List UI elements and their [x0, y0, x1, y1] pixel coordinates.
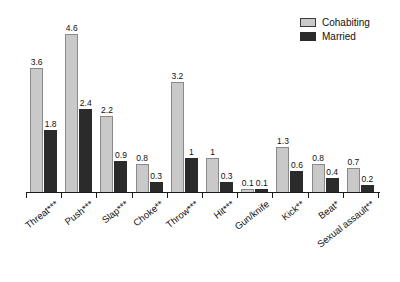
x-axis-tick	[132, 193, 133, 198]
x-axis-tick	[378, 193, 379, 198]
bar-cohabiting: 3.2	[171, 20, 184, 192]
bar-married: 0.6	[290, 20, 303, 192]
bar-value-label: 0.3	[150, 172, 162, 181]
plot-area: 3.61.84.62.42.20.90.80.33.2110.30.10.11.…	[26, 20, 378, 192]
x-axis-tick	[167, 193, 168, 198]
bar-rect	[290, 171, 303, 192]
x-axis-tick	[96, 193, 97, 198]
bar-rect	[220, 182, 233, 192]
x-axis-tick	[26, 193, 27, 198]
bar-rect	[206, 158, 219, 192]
bar-value-label: 0.6	[291, 161, 303, 170]
bar-cohabiting: 1	[206, 20, 219, 192]
bar-rect	[150, 182, 163, 192]
bar-value-label: 0.8	[136, 154, 148, 163]
bar-married: 0.4	[326, 20, 339, 192]
bar-married: 0.2	[361, 20, 374, 192]
bar-value-label: 0.9	[115, 151, 127, 160]
bar-value-label: 4.6	[66, 24, 78, 33]
bar-value-label: 0.4	[326, 168, 338, 177]
x-axis-label: Threat***	[0, 199, 60, 282]
bar-chart: Cohabiting Married 3.61.84.62.42.20.90.8…	[0, 0, 400, 282]
bar-cohabiting: 1.3	[276, 20, 289, 192]
bar-value-label: 1	[210, 148, 215, 157]
x-axis-tick	[308, 193, 309, 198]
bar-rect	[185, 158, 198, 192]
bar-rect	[276, 147, 289, 192]
x-axis-line	[26, 192, 380, 193]
bar-cohabiting: 0.8	[136, 20, 149, 192]
bar-rect	[30, 68, 43, 192]
bar-cohabiting: 3.6	[30, 20, 43, 192]
bar-value-label: 0.2	[361, 175, 373, 184]
bar-rect	[171, 82, 184, 192]
x-axis-label: Sexual assault**	[213, 199, 377, 282]
bar-group: 0.10.1	[237, 20, 272, 192]
bar-value-label: 1	[189, 148, 194, 157]
bar-married: 0.9	[114, 20, 127, 192]
x-axis-tick	[202, 193, 203, 198]
bar-group: 3.21	[167, 20, 202, 192]
bar-married: 0.3	[150, 20, 163, 192]
bar-group: 0.80.3	[132, 20, 167, 192]
bar-group: 3.61.8	[26, 20, 61, 192]
x-axis-label: Beat*	[178, 199, 342, 282]
x-axis-label: Choke**	[2, 199, 166, 282]
bar-cohabiting: 2.2	[100, 20, 113, 192]
x-axis-label: Push***	[0, 199, 95, 282]
bar-rect	[65, 34, 78, 192]
bar-group: 10.3	[202, 20, 237, 192]
bar-value-label: 1.3	[277, 137, 289, 146]
bar-cohabiting: 4.6	[65, 20, 78, 192]
bar-value-label: 0.3	[221, 172, 233, 181]
x-axis-tick	[343, 193, 344, 198]
bar-value-label: 3.6	[31, 58, 43, 67]
bar-rect	[79, 109, 92, 192]
bar-married: 2.4	[79, 20, 92, 192]
bar-rect	[326, 178, 339, 192]
bar-rect	[347, 168, 360, 192]
bar-value-label: 3.2	[171, 72, 183, 81]
bar-value-label: 0.7	[347, 158, 359, 167]
x-axis-tick	[272, 193, 273, 198]
bar-group: 1.30.6	[272, 20, 307, 192]
bar-group: 0.70.2	[343, 20, 378, 192]
x-axis-label: Throw***	[37, 199, 201, 282]
bar-rect	[136, 164, 149, 192]
x-axis-label: Hit***	[72, 199, 236, 282]
bar-value-label: 2.4	[80, 99, 92, 108]
bar-married: 0.3	[220, 20, 233, 192]
x-axis-label: Gun/knife	[107, 199, 271, 282]
bar-value-label: 0.1	[242, 179, 254, 188]
bar-value-label: 0.8	[312, 154, 324, 163]
x-axis-label: Kick**	[142, 199, 306, 282]
x-axis-label: Slap***	[0, 199, 130, 282]
bar-group: 0.80.4	[308, 20, 343, 192]
x-axis-tick	[237, 193, 238, 198]
bar-rect	[44, 130, 57, 192]
bar-married: 1	[185, 20, 198, 192]
bar-group: 4.62.4	[61, 20, 96, 192]
bar-rect	[114, 161, 127, 192]
bar-value-label: 2.2	[101, 106, 113, 115]
bar-value-label: 1.8	[45, 120, 57, 129]
bar-rect	[361, 185, 374, 192]
bar-group: 2.20.9	[96, 20, 131, 192]
x-axis-tick	[61, 193, 62, 198]
bar-rect	[100, 116, 113, 192]
bar-married: 1.8	[44, 20, 57, 192]
bar-cohabiting: 0.1	[241, 20, 254, 192]
bar-value-label: 0.1	[256, 179, 268, 188]
bar-cohabiting: 0.7	[347, 20, 360, 192]
bar-cohabiting: 0.8	[312, 20, 325, 192]
bar-rect	[312, 164, 325, 192]
bar-married: 0.1	[255, 20, 268, 192]
